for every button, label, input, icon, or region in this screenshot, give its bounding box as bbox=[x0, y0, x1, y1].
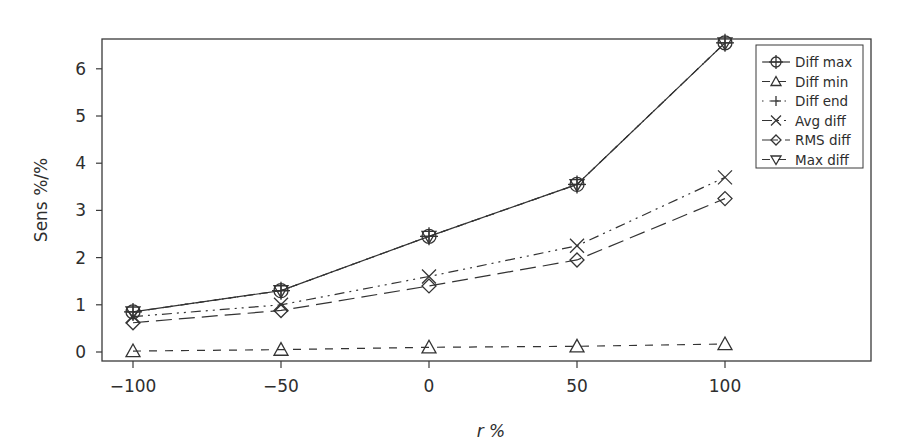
x-tick-label: −50 bbox=[263, 376, 299, 396]
legend-label: Max diff bbox=[795, 152, 850, 168]
x-tick-label: 0 bbox=[424, 376, 435, 396]
legend-label: Avg diff bbox=[795, 113, 847, 129]
legend-item: Diff max bbox=[762, 54, 852, 70]
series-diff-min bbox=[126, 337, 732, 357]
y-tick-label: 6 bbox=[75, 59, 86, 79]
legend: Diff maxDiff minDiff endAvg diffRMS diff… bbox=[756, 45, 863, 168]
x-tick-label: 100 bbox=[709, 376, 741, 396]
series-rms-diff bbox=[126, 192, 732, 330]
y-tick-label: 1 bbox=[75, 295, 86, 315]
x-axis-title: r % bbox=[477, 421, 506, 441]
y-tick-label: 5 bbox=[75, 106, 86, 126]
legend-label: Diff max bbox=[795, 54, 852, 70]
line-chart: 0123456 −100−50050100 Sens %/% r % Diff … bbox=[0, 0, 903, 448]
series-diff-max bbox=[124, 34, 734, 321]
x-axis: −100−50050100 bbox=[110, 361, 742, 396]
y-tick-label: 4 bbox=[75, 153, 86, 173]
series-avg-diff bbox=[126, 170, 732, 323]
x-tick-label: −100 bbox=[110, 376, 157, 396]
y-axis: 0123456 bbox=[75, 59, 102, 362]
legend-label: Diff end bbox=[795, 93, 848, 109]
y-tick-label: 3 bbox=[75, 200, 86, 220]
x-tick-label: 50 bbox=[566, 376, 588, 396]
legend-label: RMS diff bbox=[795, 132, 851, 148]
legend-label: Diff min bbox=[795, 74, 848, 90]
y-tick-label: 0 bbox=[75, 342, 86, 362]
y-axis-title: Sens %/% bbox=[31, 158, 51, 242]
y-tick-label: 2 bbox=[75, 248, 86, 268]
plot-series bbox=[124, 34, 734, 357]
